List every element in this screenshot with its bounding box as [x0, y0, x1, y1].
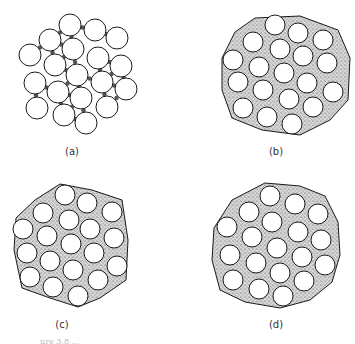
particle	[47, 81, 69, 103]
particle	[110, 55, 132, 77]
particle	[262, 212, 282, 232]
particle	[323, 82, 343, 102]
particle	[44, 54, 66, 76]
particle	[104, 228, 124, 248]
particle	[19, 44, 41, 66]
particle	[37, 226, 57, 246]
particle	[24, 72, 46, 94]
particle	[242, 227, 262, 247]
particle	[70, 87, 92, 109]
sintering-stages-figure	[0, 0, 355, 344]
particle	[279, 89, 299, 109]
particle	[77, 193, 97, 213]
particle	[233, 98, 253, 118]
particle	[84, 19, 106, 41]
particle	[267, 238, 287, 258]
particle	[84, 243, 104, 263]
panel-c-filled-matrix	[13, 184, 128, 307]
particle	[285, 194, 305, 214]
particle	[288, 23, 308, 43]
particle	[260, 186, 280, 206]
particle	[246, 253, 266, 273]
particle	[282, 114, 302, 134]
particle	[17, 243, 37, 263]
particle	[315, 255, 335, 275]
particle	[80, 219, 100, 239]
particle	[317, 53, 337, 73]
particle	[75, 112, 97, 134]
particle	[66, 64, 88, 86]
particle	[257, 107, 277, 127]
particle	[270, 263, 290, 283]
particle	[311, 230, 331, 250]
particle	[43, 277, 63, 297]
particle	[62, 38, 84, 60]
particle	[217, 217, 237, 237]
particle	[273, 286, 293, 306]
particle	[303, 97, 323, 117]
figure-caption-fragment: ure 3.8 ...	[40, 337, 79, 344]
particle	[308, 204, 328, 224]
particle	[243, 32, 263, 52]
particle	[88, 270, 108, 290]
particle	[106, 27, 128, 49]
particle	[292, 247, 312, 267]
particle	[115, 78, 137, 100]
particle	[228, 72, 248, 92]
panel-b-partial-matrix	[222, 15, 350, 135]
particle	[39, 29, 61, 51]
panel-b-label: (b)	[269, 146, 283, 157]
particle	[274, 63, 294, 83]
particle	[102, 202, 122, 222]
particle	[223, 50, 243, 70]
particle	[220, 245, 240, 265]
particle	[68, 286, 88, 306]
particle	[297, 73, 317, 93]
particle	[294, 271, 314, 291]
particle	[61, 234, 81, 254]
particle	[87, 47, 109, 69]
particle	[223, 270, 243, 290]
particle	[313, 30, 333, 50]
particle	[270, 39, 290, 59]
particle	[253, 80, 273, 100]
particle	[288, 222, 308, 242]
particle	[40, 251, 60, 271]
particle	[13, 219, 33, 239]
panel-d-embedded-particles	[212, 183, 340, 308]
particle	[20, 267, 40, 287]
panel-d-label: (d)	[269, 319, 283, 330]
panel-c-label: (c)	[55, 319, 68, 330]
panel-a-loose-particles	[19, 14, 137, 134]
particle	[265, 15, 285, 35]
particle	[96, 96, 118, 118]
particle	[59, 210, 79, 230]
particle	[91, 71, 113, 93]
particle	[239, 202, 259, 222]
particle	[33, 203, 53, 223]
panel-a-label: (a)	[65, 146, 79, 157]
particle	[249, 279, 269, 299]
particle	[59, 14, 81, 36]
particle	[63, 260, 83, 280]
particle	[55, 185, 75, 205]
particle	[26, 97, 48, 119]
particle	[107, 256, 127, 276]
particle	[53, 104, 75, 126]
particle	[249, 57, 269, 77]
particle	[293, 46, 313, 66]
